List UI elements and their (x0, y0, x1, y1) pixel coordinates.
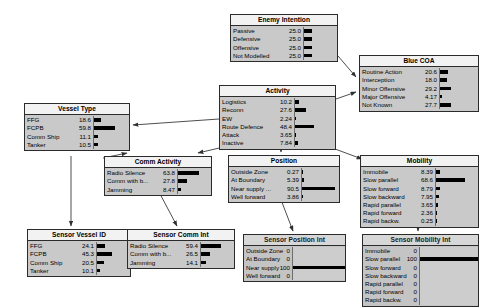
node-mobility[interactable]: Mobility Immobile8.39Slow parallel68.6Sl… (360, 155, 479, 228)
state-row[interactable]: Rapid forward0 (363, 288, 478, 296)
state-row[interactable]: Offensive25.0 (231, 44, 337, 52)
state-row[interactable]: Slow parallel68.6 (361, 176, 478, 184)
state-row[interactable]: Interception18.0 (360, 76, 478, 84)
state-row[interactable]: Outside Zone0.27 (229, 168, 339, 176)
state-row[interactable]: Immobile8.39 (361, 168, 478, 176)
state-value: 3.65 (413, 202, 435, 208)
node-rows: Routine Action20.6Interception18.0Minor … (360, 67, 478, 111)
state-row[interactable]: Rapid parallel3.65 (361, 201, 478, 209)
state-row[interactable]: Jamming14.1 (128, 259, 234, 267)
node-sensor-vessel-id[interactable]: Sensor Vessel ID FFG24.1FCPB45.3Comm Shi… (27, 229, 131, 277)
state-label: Interception (362, 77, 417, 83)
state-label: Rapid backw. (365, 297, 414, 303)
state-row[interactable]: Attack3.65 (220, 131, 335, 139)
state-row[interactable]: EW2.24 (220, 115, 335, 123)
node-position[interactable]: Position Outside Zone0.27At Boundary5.39… (228, 155, 340, 203)
state-bar-track (435, 209, 478, 217)
state-bar-track (93, 133, 129, 141)
state-value: 7.95 (413, 194, 435, 200)
state-value: 11.1 (71, 134, 93, 140)
state-row[interactable]: At Boundary0 (244, 255, 345, 263)
state-row[interactable]: Jamming8.47 (105, 186, 211, 194)
state-row[interactable]: Tanker10.5 (25, 141, 129, 149)
state-row[interactable]: Comm Ship11.1 (25, 133, 129, 141)
state-bar (178, 188, 181, 192)
state-row[interactable]: Comm with b...27.8 (105, 177, 211, 185)
state-row[interactable]: FFG24.1 (28, 242, 130, 250)
state-row[interactable]: Not Known27.7 (360, 101, 478, 109)
state-row[interactable]: Minor Offensive29.2 (360, 85, 478, 93)
state-value: 25.0 (281, 53, 303, 59)
state-label: Tanker (30, 268, 74, 274)
state-row[interactable]: Well forward3.86 (229, 193, 339, 201)
state-row[interactable]: Near supply ...100 (244, 264, 345, 272)
state-row[interactable]: FCPB45.3 (28, 250, 130, 258)
state-row[interactable]: Tanker10.1 (28, 267, 130, 275)
node-blue-coa[interactable]: Blue COA Routine Action20.6Interception1… (359, 55, 479, 112)
state-bar (295, 133, 296, 137)
state-bar (440, 95, 442, 99)
state-row[interactable]: Defensive25.0 (231, 35, 337, 43)
state-row[interactable]: Slow backward7.95 (361, 193, 478, 201)
state-row[interactable]: Major Offensive4.17 (360, 93, 478, 101)
state-label: Comm with b... (130, 251, 178, 257)
node-sensor-mobility-int[interactable]: Sensor Mobility Int Immobile0Slow parall… (362, 234, 479, 307)
state-row[interactable]: FFG18.6 (25, 116, 129, 124)
state-row[interactable]: Rapid backw.0 (363, 296, 478, 304)
node-sensor-comm-int[interactable]: Sensor Comm Int Radio Silence59.4Comm wi… (127, 229, 235, 269)
state-value: 2.24 (272, 116, 294, 122)
state-row[interactable]: Comm with b...26.5 (128, 250, 234, 258)
state-row[interactable]: Slow forward0 (363, 264, 478, 272)
state-row[interactable]: Slow parallel100 (363, 255, 478, 263)
state-bar (178, 179, 187, 183)
node-comm-activity[interactable]: Comm Activity Radio Silence63.8Comm with… (104, 156, 212, 196)
state-row[interactable]: Slow backward0 (363, 272, 478, 280)
state-row[interactable]: Immobile0 (363, 247, 478, 255)
state-row[interactable]: Passive25.0 (231, 27, 337, 35)
state-row[interactable]: At Boundary5.39 (229, 176, 339, 184)
state-row[interactable]: FCPB59.8 (25, 124, 129, 132)
state-bar-track (301, 176, 339, 184)
state-bar-track (294, 106, 335, 114)
state-row[interactable]: Not Modelled25.0 (231, 52, 337, 60)
state-row[interactable]: Rapid parallel0 (363, 280, 478, 288)
state-bar-track (93, 116, 129, 124)
state-row[interactable]: Route Defence48.4 (220, 123, 335, 131)
state-row[interactable]: Routine Action20.6 (360, 68, 478, 76)
state-row[interactable]: Comm Ship20.5 (28, 259, 130, 267)
node-enemy-intention[interactable]: Enemy Intention Passive25.0Defensive25.0… (230, 14, 338, 62)
state-label: Attack (222, 132, 272, 138)
state-row[interactable]: Near supply ...90.5 (229, 185, 339, 193)
state-row[interactable]: Rapid backw.0.25 (361, 217, 478, 225)
state-row[interactable]: Radio Silence63.8 (105, 169, 211, 177)
state-bar (440, 103, 451, 107)
state-row[interactable]: Outside Zone0 (244, 247, 345, 255)
state-label: Major Offensive (362, 94, 417, 100)
state-row[interactable]: Well forward0 (244, 272, 345, 280)
state-row[interactable]: Radio Silence59.4 (128, 242, 234, 250)
node-rows: Radio Silence63.8Comm with b...27.8Jammi… (105, 168, 211, 195)
state-value: 8.47 (155, 187, 177, 193)
state-row[interactable]: Rapid forward2.36 (361, 209, 478, 217)
node-title: Sensor Mobility Int (363, 235, 478, 246)
state-value: 2.36 (413, 210, 435, 216)
state-label: Slow parallel (363, 177, 413, 183)
node-title: Vessel Type (25, 104, 129, 115)
state-bar (293, 266, 345, 270)
state-label: Outside Zone (231, 169, 279, 175)
node-activity[interactable]: Activity Logistics10.2Reconn27.6EW2.24Ro… (219, 85, 336, 150)
state-label: Tanker (27, 142, 71, 148)
state-row[interactable]: Logistics10.2 (220, 98, 335, 106)
state-label: FCPB (30, 251, 74, 257)
state-label: Rapid forward (365, 289, 414, 295)
node-sensor-position-int[interactable]: Sensor Position Int Outside Zone0At Boun… (243, 234, 346, 282)
state-row[interactable]: Slow forward8.79 (361, 185, 478, 193)
state-label: Near supply ... (246, 265, 280, 271)
state-row[interactable]: Inactive7.84 (220, 139, 335, 147)
node-vessel-type[interactable]: Vessel Type FFG18.6FCPB59.8Comm Ship11.1… (24, 103, 130, 151)
node-rows: Immobile8.39Slow parallel68.6Slow forwar… (361, 167, 478, 227)
state-row[interactable]: Reconn27.6 (220, 106, 335, 114)
state-value: 18.6 (71, 117, 93, 123)
state-bar (304, 46, 312, 50)
